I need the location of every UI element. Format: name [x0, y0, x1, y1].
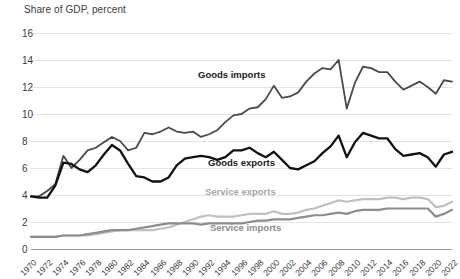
series-label-service-imports: Service imports — [210, 222, 281, 233]
series-label-goods-imports: Goods imports — [198, 69, 266, 80]
series-label-goods-exports: Goods exports — [208, 157, 275, 168]
series-line-goods-imports — [31, 60, 452, 196]
series-label-service-exports: Service exports — [205, 186, 276, 197]
